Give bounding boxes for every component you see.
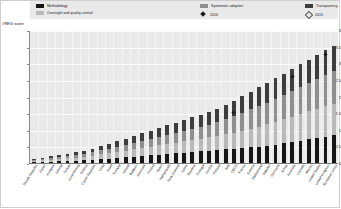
bar-segment [207, 137, 211, 150]
bar-segment [232, 149, 236, 164]
vertical-gridline [238, 31, 239, 164]
bar-segment [324, 137, 328, 164]
y-axis-tick-mark [27, 81, 29, 82]
vertical-gridline [163, 31, 164, 164]
bar-segment [157, 128, 161, 137]
bar[interactable] [157, 128, 161, 164]
bar[interactable] [140, 133, 144, 164]
bar-segment [207, 112, 211, 125]
bar[interactable] [149, 131, 153, 164]
legend-label: Transparency [316, 4, 338, 8]
vertical-gridline [72, 31, 73, 164]
vertical-gridline [188, 31, 189, 164]
bar[interactable] [190, 117, 194, 164]
bar[interactable] [215, 109, 219, 164]
bar[interactable] [240, 96, 244, 164]
y-axis-tick-label: 2.5 [315, 79, 341, 83]
bar-segment [132, 143, 136, 150]
vertical-gridline [271, 31, 272, 164]
bar-segment [140, 148, 144, 156]
bar-segment [174, 123, 178, 133]
bar-segment [249, 129, 253, 148]
vertical-gridline [80, 31, 81, 164]
bar[interactable] [299, 64, 303, 164]
bar-segment [257, 127, 261, 147]
gridline [30, 48, 338, 49]
y-axis-tick-mark [27, 48, 29, 49]
bar-segment [215, 136, 219, 150]
bar[interactable] [290, 69, 294, 164]
vertical-gridline [263, 31, 264, 164]
bar-segment [299, 114, 303, 141]
legend-item[interactable]: 2016 [200, 11, 218, 18]
bar[interactable] [249, 92, 253, 164]
vertical-gridline [255, 31, 256, 164]
bar-segment [224, 149, 228, 164]
x-axis-tick-label: Finland [213, 164, 222, 175]
bar-segment [132, 149, 136, 156]
bar-segment [265, 146, 269, 164]
vertical-gridline [38, 31, 39, 164]
bar[interactable] [124, 139, 128, 164]
vertical-gridline [105, 31, 106, 164]
bar-segment [274, 122, 278, 145]
bar[interactable] [115, 141, 119, 164]
bar[interactable] [99, 146, 103, 164]
vertical-gridline [47, 31, 48, 164]
y-axis-tick-label: 2 [315, 96, 341, 100]
bar-segment [215, 150, 219, 164]
legend-item[interactable]: Methodology [36, 4, 68, 8]
bar-segment [315, 138, 319, 164]
bar-segment [199, 139, 203, 152]
bar[interactable] [174, 123, 178, 164]
x-axis-tick-label: Norway [113, 164, 122, 176]
plot-area [30, 31, 338, 164]
bar[interactable] [207, 112, 211, 164]
bar[interactable] [307, 60, 311, 164]
bar[interactable] [82, 151, 86, 164]
bar[interactable] [91, 149, 95, 164]
bar[interactable] [132, 136, 136, 164]
bar[interactable] [107, 144, 111, 164]
bar[interactable] [224, 105, 228, 164]
bar-segment [240, 96, 244, 113]
chart-legend: MethodologyOversight and quality control… [30, 1, 338, 19]
y-axis-title: #REG score [2, 21, 24, 26]
x-axis-tick-label: Poland [147, 164, 156, 175]
x-axis-labels: Slovak RepublicJapanHungaryIcelandTurkey… [30, 164, 338, 209]
bar-segment [307, 60, 311, 83]
vertical-gridline [280, 31, 281, 164]
bar[interactable] [274, 78, 278, 164]
legend-item[interactable]: Systematic adoption [200, 4, 243, 8]
bar-segment [299, 87, 303, 114]
bar-segment [290, 142, 294, 164]
bar-segment [282, 95, 286, 120]
legend-item[interactable]: 2015 [305, 11, 323, 18]
bar[interactable] [182, 120, 186, 164]
bar-segment [307, 83, 311, 112]
y-axis-tick-label: 0 [315, 162, 341, 166]
bar[interactable] [257, 87, 261, 164]
legend-swatch-icon [305, 4, 313, 8]
bar-segment [315, 55, 319, 79]
bar-segment [282, 143, 286, 164]
vertical-gridline [246, 31, 247, 164]
bar-segment [290, 117, 294, 142]
vertical-gridline [63, 31, 64, 164]
x-axis-tick-label: Slovak Republic [23, 164, 39, 187]
bar[interactable] [165, 125, 169, 164]
bar-segment [190, 140, 194, 152]
bar-segment [224, 105, 228, 119]
y-axis-line [29, 31, 30, 164]
bar-segment [257, 106, 261, 127]
bar-segment [265, 83, 269, 103]
chart-root: MethodologyOversight and quality control… [0, 0, 341, 209]
legend-item[interactable]: Oversight and quality control [36, 11, 93, 15]
vertical-gridline [97, 31, 98, 164]
bar[interactable] [282, 74, 286, 164]
bar[interactable] [265, 83, 269, 164]
legend-item[interactable]: Transparency [305, 4, 338, 8]
bar[interactable] [199, 115, 203, 164]
bar-segment [215, 122, 219, 136]
bar-segment [307, 139, 311, 164]
